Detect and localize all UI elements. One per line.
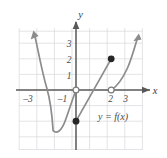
y-tick-label: 1 <box>67 71 72 81</box>
graph-background <box>0 0 167 158</box>
curve-equation-label: y = f(x) <box>97 111 129 123</box>
open-circle-origin-marker <box>73 87 79 93</box>
y-tick-label: 2 <box>67 55 72 65</box>
x-axis-label: x <box>152 85 158 96</box>
y-axis-label: y <box>77 9 83 20</box>
open-circle-x2-marker <box>108 87 114 93</box>
filled-dot-left-endpoint-marker <box>73 118 80 125</box>
x-tick-label: 2 <box>108 94 113 104</box>
piecewise-function-graph: x y –3 –1 2 3 1 2 3 y = f(x) <box>0 0 167 158</box>
y-tick-label: 3 <box>66 39 72 49</box>
x-tick-label: –1 <box>57 94 68 104</box>
x-tick-label: –3 <box>22 94 33 104</box>
x-tick-label: 3 <box>122 94 128 104</box>
y-tick-labels: 1 2 3 <box>66 39 72 81</box>
figure-container: x y –3 –1 2 3 1 2 3 y = f(x) <box>0 0 167 158</box>
filled-dot-right-endpoint-marker <box>108 55 115 62</box>
